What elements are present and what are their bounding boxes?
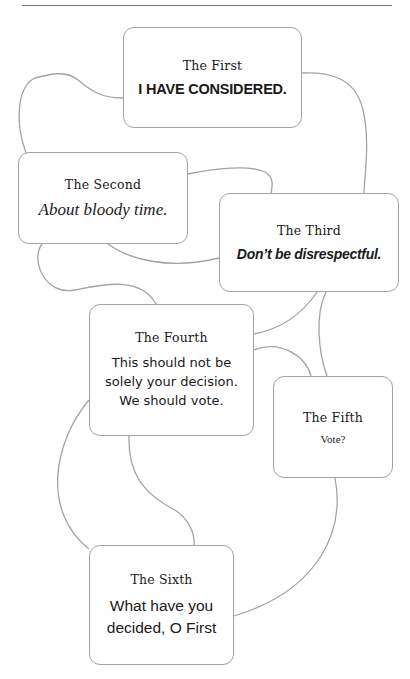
node-message: About bloody time. bbox=[39, 200, 168, 220]
message-line: solely your decision. bbox=[105, 372, 238, 391]
edge-first-third bbox=[302, 73, 367, 193]
node-title: The Fourth bbox=[135, 330, 207, 345]
node-second: The Second About bloody time. bbox=[18, 152, 188, 244]
node-fourth: The Fourth This should not be solely you… bbox=[89, 304, 254, 436]
node-third: The Third Don’t be disrespectful. bbox=[219, 193, 399, 292]
edge-fourth-sixth bbox=[129, 436, 194, 545]
node-title: The Third bbox=[277, 223, 341, 238]
node-message: I HAVE CONSIDERED. bbox=[138, 81, 286, 97]
edge-second-third bbox=[188, 168, 272, 193]
node-fifth: The Fifth Vote? bbox=[273, 376, 393, 478]
edge-third-fourth bbox=[254, 292, 317, 334]
edge-first-second bbox=[19, 74, 123, 153]
node-message: This should not be solely your decision.… bbox=[105, 353, 238, 410]
edge-second-third-lower bbox=[108, 244, 219, 263]
node-message: Vote? bbox=[321, 433, 346, 445]
edge-fourth-sixth-left bbox=[58, 400, 89, 549]
node-title: The Fifth bbox=[303, 410, 363, 425]
message-line: This should not be bbox=[105, 353, 238, 372]
node-title: The First bbox=[183, 58, 243, 73]
node-message: Don’t be disrespectful. bbox=[237, 246, 381, 262]
node-message: What have you decided, O First bbox=[107, 595, 216, 639]
node-sixth: The Sixth What have you decided, O First bbox=[89, 545, 234, 665]
edge-second-fourth bbox=[38, 244, 156, 304]
edge-fourth-fifth bbox=[254, 347, 311, 376]
message-line: We should vote. bbox=[105, 391, 238, 410]
message-line: decided, O First bbox=[107, 617, 216, 639]
edge-fifth-sixth bbox=[234, 478, 337, 616]
node-title: The Second bbox=[65, 177, 141, 192]
node-first: The First I HAVE CONSIDERED. bbox=[123, 27, 302, 128]
message-line: What have you bbox=[107, 595, 216, 617]
edge-third-fifth bbox=[319, 292, 327, 376]
node-title: The Sixth bbox=[130, 572, 192, 587]
